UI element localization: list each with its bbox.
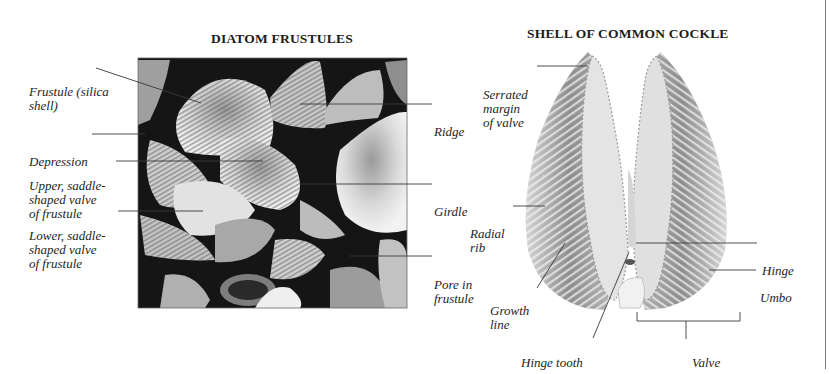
label-frustule: Frustule (silicashell) (29, 57, 109, 127)
label-serrated-margin: Serratedmarginof valve (483, 60, 528, 144)
label-ridge: Ridge (434, 97, 464, 153)
label-radial-rib: Radialrib (470, 199, 505, 269)
cockle-shell (526, 52, 727, 310)
label-pore: Pore infrustule (434, 250, 474, 320)
label-girdle: Girdle (434, 177, 467, 233)
page-edge-border (825, 0, 826, 369)
label-lower-valve: Lower, saddle-shaped valveof frustule (29, 201, 106, 285)
label-hinge-tooth: Hinge tooth (521, 328, 583, 374)
label-valve: Valve (692, 328, 720, 374)
label-umbo: Umbo (760, 263, 792, 319)
